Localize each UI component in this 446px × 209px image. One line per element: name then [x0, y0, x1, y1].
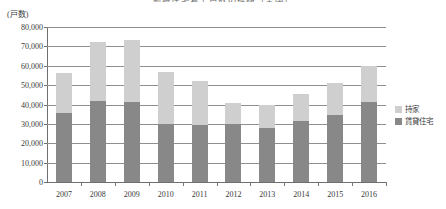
bar-segment-owned[interactable]	[192, 81, 208, 125]
bar-group[interactable]	[327, 83, 343, 182]
x-axis-tick-mark	[217, 182, 218, 186]
bar-group[interactable]	[56, 73, 72, 182]
x-axis-tick-mark	[149, 182, 150, 186]
x-axis-tick-mark	[183, 182, 184, 186]
chart-legend: 持家賃貸住宅	[395, 104, 433, 128]
bar-segment-owned[interactable]	[124, 40, 140, 102]
y-axis-tick-label: 20,000	[1, 139, 43, 148]
bar-group[interactable]	[124, 40, 140, 182]
bar-group[interactable]	[90, 42, 106, 182]
bar-segment-rental[interactable]	[259, 128, 275, 182]
legend-swatch-icon	[395, 106, 402, 113]
plot-area	[47, 27, 386, 182]
bar-segment-rental[interactable]	[56, 113, 72, 182]
legend-item[interactable]: 賃貸住宅	[395, 116, 433, 127]
y-axis-tick-label: 10,000	[1, 158, 43, 167]
y-axis-tick-label: 50,000	[1, 81, 43, 90]
bar-segment-owned[interactable]	[259, 105, 275, 128]
bar-segment-rental[interactable]	[225, 124, 241, 182]
y-axis-tick-label: 0	[1, 178, 43, 187]
bar-segment-rental[interactable]	[158, 124, 174, 182]
y-axis-tick-group: 010,00020,00030,00040,00050,00060,00070,…	[0, 0, 43, 209]
bar-segment-rental[interactable]	[124, 102, 140, 182]
bar-group[interactable]	[293, 94, 309, 182]
bar-segment-rental[interactable]	[192, 125, 208, 182]
y-axis-tick-label: 70,000	[1, 42, 43, 51]
bar-segment-rental[interactable]	[361, 102, 377, 182]
bar-segment-rental[interactable]	[90, 101, 106, 182]
y-axis-tick-label: 40,000	[1, 100, 43, 109]
stacked-bar-chart: 新設住宅着工戸数の推移（全国） (戸数) 010,00020,00030,000…	[0, 0, 446, 209]
y-axis-tick-label: 80,000	[1, 23, 43, 32]
x-axis-tick-mark	[352, 182, 353, 186]
x-axis-tick-mark	[284, 182, 285, 186]
legend-label: 賃貸住宅	[405, 116, 433, 127]
legend-item[interactable]: 持家	[395, 104, 433, 115]
legend-label: 持家	[405, 104, 419, 115]
x-axis-tick-label: 2016	[349, 190, 389, 199]
y-axis-tick-label: 30,000	[1, 119, 43, 128]
bar-segment-owned[interactable]	[327, 83, 343, 115]
bar-segment-owned[interactable]	[158, 72, 174, 124]
bar-segment-owned[interactable]	[56, 73, 72, 114]
x-axis-tick-mark	[81, 182, 82, 186]
x-axis-tick-mark	[250, 182, 251, 186]
chart-title: 新設住宅着工戸数の推移（全国）	[0, 0, 446, 2]
bar-segment-owned[interactable]	[361, 66, 377, 102]
bar-group[interactable]	[225, 103, 241, 182]
bar-segment-owned[interactable]	[225, 103, 241, 124]
x-axis-tick-mark	[115, 182, 116, 186]
bar-segment-rental[interactable]	[293, 121, 309, 182]
bar-segment-owned[interactable]	[293, 94, 309, 121]
y-axis-tick-label: 60,000	[1, 61, 43, 70]
x-axis-tick-mark	[386, 182, 387, 186]
bar-group[interactable]	[361, 66, 377, 182]
bar-segment-owned[interactable]	[90, 42, 106, 101]
bar-group[interactable]	[158, 72, 174, 182]
bar-group[interactable]	[259, 105, 275, 183]
x-axis-tick-mark	[318, 182, 319, 186]
gridline-80000	[47, 27, 386, 28]
legend-swatch-icon	[395, 118, 402, 125]
bar-group[interactable]	[192, 81, 208, 182]
bar-segment-rental[interactable]	[327, 115, 343, 182]
